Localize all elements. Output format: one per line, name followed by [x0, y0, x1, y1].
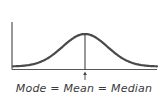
arrow-up-icon	[83, 72, 87, 81]
caption: Mode = Mean = Median	[0, 82, 168, 95]
